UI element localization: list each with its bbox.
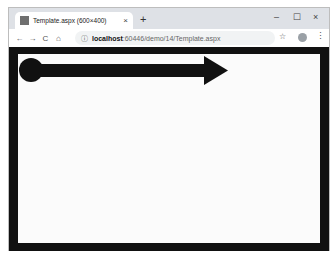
tab-close-icon[interactable]: ×: [123, 16, 128, 25]
maximize-button[interactable]: ☐: [293, 12, 301, 22]
site-info-icon[interactable]: ⓘ: [81, 33, 88, 43]
browser-toolbar: ← → C ⌂ ⓘ localhost :60446/demo/14/Templ…: [9, 29, 329, 47]
arrow-shape-icon: [18, 54, 320, 243]
minimize-button[interactable]: –: [274, 12, 279, 22]
forward-button[interactable]: →: [26, 34, 39, 43]
reload-button[interactable]: C: [39, 34, 52, 43]
browser-window: Template.aspx (600×400) × + – ☐ × ← → C …: [8, 7, 330, 251]
back-button[interactable]: ←: [13, 34, 26, 43]
close-window-button[interactable]: ×: [313, 12, 318, 22]
profile-avatar[interactable]: [298, 33, 307, 42]
url-host: localhost: [92, 35, 123, 42]
bookmark-star-icon[interactable]: ☆: [279, 32, 286, 41]
tab-strip: Template.aspx (600×400) × + – ☐ ×: [9, 8, 329, 29]
browser-menu-icon[interactable]: ⋮: [316, 31, 325, 41]
home-button[interactable]: ⌂: [52, 34, 65, 43]
page-favicon-icon: [20, 16, 29, 25]
tab-template[interactable]: Template.aspx (600×400) ×: [15, 12, 133, 29]
address-bar[interactable]: ⓘ localhost :60446/demo/14/Template.aspx: [75, 31, 275, 45]
new-tab-button[interactable]: +: [140, 13, 146, 25]
url-path: :60446/demo/14/Template.aspx: [123, 35, 221, 42]
tab-title: Template.aspx (600×400): [33, 17, 123, 24]
page-viewport: [9, 47, 329, 251]
drawing-canvas: [18, 54, 320, 243]
